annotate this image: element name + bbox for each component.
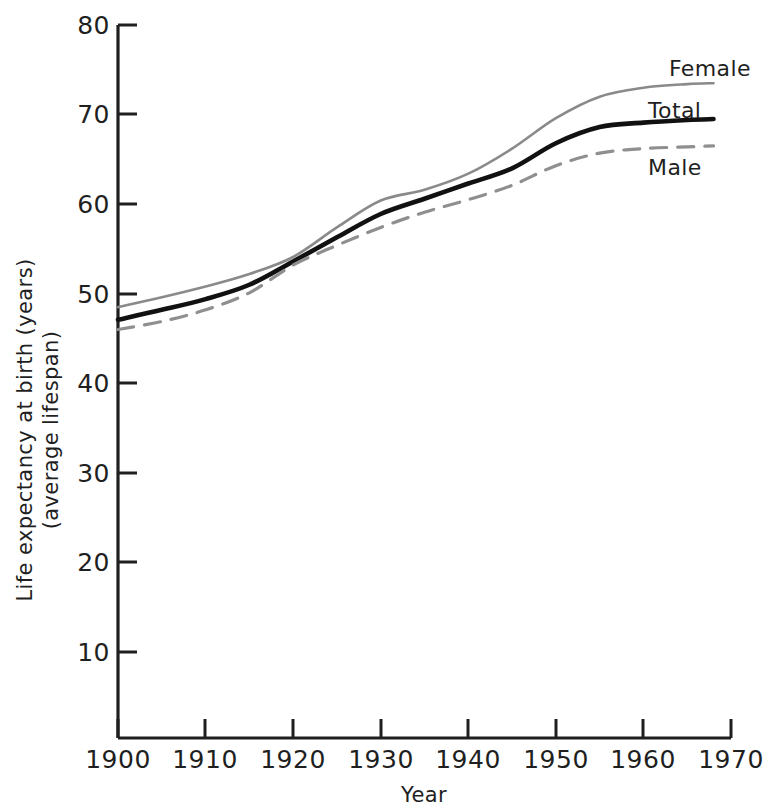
y-axis-title-line1: Life expectancy at birth (years)	[13, 258, 37, 601]
x-axis-title: Year	[400, 783, 447, 807]
y-tick-label-20: 20	[77, 548, 110, 577]
x-tick-label-1910: 1910	[172, 745, 238, 774]
x-axis-ticks	[118, 719, 731, 738]
y-tick-label-50: 50	[77, 280, 110, 309]
series-label-total: Total	[647, 98, 701, 123]
x-axis-tick-labels: 1900 1910 1920 1930 1940 1950 1960 1970	[85, 745, 764, 774]
y-tick-label-10: 10	[77, 638, 110, 667]
x-tick-label-1900: 1900	[85, 745, 151, 774]
y-axis-tick-labels: 80 70 60 50 40 30 20 10	[77, 11, 110, 667]
y-tick-label-60: 60	[77, 190, 110, 219]
series-layer	[118, 83, 713, 329]
x-tick-label-1920: 1920	[260, 745, 326, 774]
chart-canvas: 80 70 60 50 40 30 20 10 1900 1910 1920 1…	[0, 0, 768, 812]
x-tick-label-1950: 1950	[523, 745, 589, 774]
series-line-female	[118, 83, 713, 307]
y-tick-label-80: 80	[77, 11, 110, 40]
series-line-male	[118, 146, 713, 330]
x-tick-label-1940: 1940	[435, 745, 501, 774]
series-label-male: Male	[648, 155, 702, 180]
x-tick-label-1930: 1930	[348, 745, 414, 774]
series-labels: Female Total Male	[647, 56, 751, 180]
y-tick-label-30: 30	[77, 459, 110, 488]
x-tick-label-1960: 1960	[610, 745, 676, 774]
y-tick-label-70: 70	[77, 100, 110, 129]
y-tick-label-40: 40	[77, 369, 110, 398]
x-tick-label-1970: 1970	[698, 745, 764, 774]
axis-lines	[118, 25, 731, 738]
y-axis-title-line2: (average lifespan)	[39, 331, 63, 530]
y-axis-ticks	[118, 25, 137, 652]
y-axis-title: Life expectancy at birth (years) (averag…	[13, 258, 63, 601]
life-expectancy-chart: 80 70 60 50 40 30 20 10 1900 1910 1920 1…	[0, 0, 768, 812]
series-label-female: Female	[669, 56, 751, 81]
